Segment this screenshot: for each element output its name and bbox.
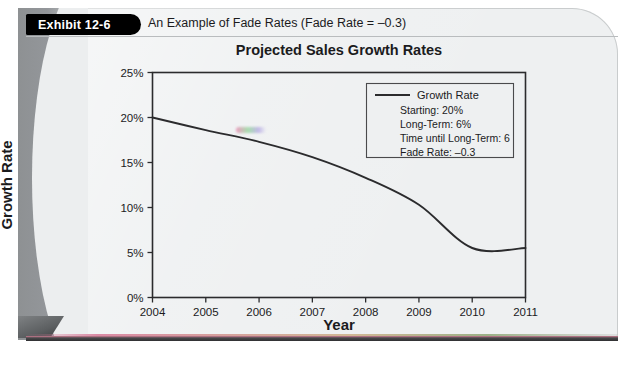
y-tick-label: 10% xyxy=(120,202,143,214)
x-tick-label: 2011 xyxy=(513,306,538,318)
x-tick-label: 2004 xyxy=(140,306,166,318)
legend-series-label: Growth Rate xyxy=(417,89,479,101)
legend-fade-rate-label: Fade Rate: –0.3 xyxy=(400,146,475,158)
exhibit-figure: Exhibit 12-6 An Example of Fade Rates (F… xyxy=(0,0,625,365)
legend-starting-label: Starting: 20% xyxy=(400,104,463,116)
x-axis-ticks: 20042005200620072008200920102011 xyxy=(140,298,538,318)
x-tick-label: 2005 xyxy=(193,306,219,318)
y-tick-label: 25% xyxy=(120,67,143,79)
y-axis-ticks: 0%5%10%15%20%25% xyxy=(120,67,152,304)
legend-time-until-long-term-label: Time until Long-Term: 6 xyxy=(400,132,510,144)
x-tick-label: 2010 xyxy=(459,306,485,318)
y-tick-label: 20% xyxy=(120,112,143,124)
x-tick-label: 2006 xyxy=(246,306,272,318)
plot-area: 0%5%10%15%20%25% 20042005200620072008200… xyxy=(0,0,625,365)
y-tick-label: 15% xyxy=(120,157,143,169)
x-tick-label: 2007 xyxy=(300,306,326,318)
x-tick-label: 2009 xyxy=(406,306,432,318)
y-tick-label: 5% xyxy=(127,247,144,259)
x-tick-label: 2008 xyxy=(353,306,379,318)
legend-long-term-label: Long-Term: 6% xyxy=(400,118,471,130)
y-tick-label: 0% xyxy=(127,292,144,304)
